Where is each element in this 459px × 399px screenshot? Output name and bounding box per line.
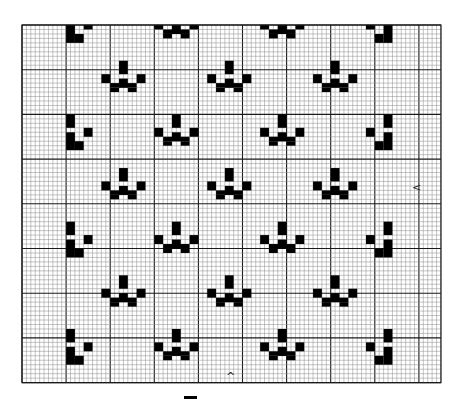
filled-stitch [322,195,331,199]
filled-stitch [295,128,304,137]
filled-stitch [375,356,384,365]
filled-stitch [269,34,278,38]
filled-stitch [119,61,128,74]
filled-stitch [287,34,296,38]
filled-stitch [322,83,348,87]
filled-stitch [101,289,110,298]
filled-stitch [84,235,93,244]
filled-stitch [119,275,128,288]
filled-stitch [216,190,242,194]
filled-stitch [163,34,172,38]
filled-stitch [163,141,172,145]
filled-stitch [322,302,331,306]
filled-stitch [348,74,357,83]
filled-stitch [110,302,119,306]
column-marker-arrow-icon: ^ [226,371,235,382]
filled-stitch [313,74,322,83]
filled-stitch [181,34,190,38]
filled-stitch [384,222,393,235]
filled-stitch [260,235,269,244]
filled-stitch [269,29,295,33]
filled-stitch [216,302,225,306]
filled-stitch [172,222,181,235]
filled-stitch [269,137,295,141]
filled-stitch [225,61,234,74]
filled-stitch [190,342,199,351]
filled-stitch [313,289,322,298]
filled-stitch [110,298,136,302]
filled-stitch [366,128,375,137]
filled-stitch [137,289,146,298]
filled-stitch [322,190,348,194]
filled-stitch [269,141,278,145]
filled-stitch [66,222,75,235]
filled-stitch [190,128,199,137]
filled-stitch [66,347,75,365]
filled-stitch [66,114,75,127]
filled-stitch [163,249,172,253]
filled-stitch [84,342,93,351]
filled-stitch [75,356,84,365]
filled-stitch [322,298,348,302]
filled-stitch [287,249,296,253]
filled-stitch [101,74,110,83]
filled-stitch [269,351,295,355]
filled-stitch [110,88,119,92]
filled-stitch [384,25,393,43]
filled-stitch [110,195,119,199]
row-marker-arrow-icon: < [412,182,421,193]
filled-stitch [154,342,163,351]
filled-stitch [243,74,252,83]
filled-stitch [101,181,110,190]
filled-stitch [295,342,304,351]
filled-stitch [287,356,296,360]
filled-stitch [181,141,190,145]
filled-stitch [225,168,234,181]
filled-stitch [234,195,243,199]
filled-stitch [366,235,375,244]
filled-stitch [75,249,84,258]
filled-stitch [137,74,146,83]
filled-stitch [154,128,163,137]
filled-stitch [366,25,375,29]
knitting-chart-grid [0,0,459,399]
filled-stitch [340,302,349,306]
filled-stitch [340,88,349,92]
filled-stitch [322,88,331,92]
filled-stitch [260,128,269,137]
filled-stitch [269,244,295,248]
filled-stitch [216,298,242,302]
filled-stitch [163,137,189,141]
filled-stitch [234,302,243,306]
filled-stitch [163,351,189,355]
filled-stitch [84,25,93,29]
filled-stitch [269,249,278,253]
filled-stitch [287,141,296,145]
filled-stitch [110,190,136,194]
filled-stitch [243,289,252,298]
filled-stitch [128,195,137,199]
filled-stitch [340,195,349,199]
filled-stitch [172,114,181,127]
filled-stitch [110,83,136,87]
filled-stitch [128,302,137,306]
filled-stitch [75,34,84,43]
filled-stitch [66,132,75,150]
filled-stitch [295,235,304,244]
filled-stitch [137,181,146,190]
filled-stitch [384,240,393,258]
filled-stitch [278,329,287,342]
filled-stitch [313,181,322,190]
filled-stitch [348,289,357,298]
filled-stitch [207,181,216,190]
filled-stitch [163,29,189,33]
filled-stitch [207,74,216,83]
filled-stitch [348,181,357,190]
filled-stitch [243,181,252,190]
filled-stitch [375,249,384,258]
filled-stitch [154,235,163,244]
filled-stitch [234,88,243,92]
filled-stitch [225,275,234,288]
filled-stitch [190,25,199,29]
filled-stitch [66,240,75,258]
